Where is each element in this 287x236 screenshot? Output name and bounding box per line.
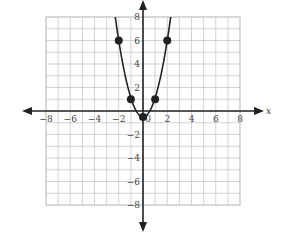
y-tick-label: 8: [134, 12, 140, 22]
y-tick-label: 2: [134, 83, 140, 93]
x-axis-right-arrow-icon: [254, 107, 264, 115]
y-tick-label: 6: [134, 36, 140, 46]
data-point: [127, 95, 135, 103]
y-tick-label: −8: [127, 200, 141, 210]
x-tick-label: 8: [237, 114, 243, 124]
x-axis-label: x: [266, 106, 271, 116]
x-tick-label: 2: [164, 114, 170, 124]
y-axis-down-arrow-icon: [139, 222, 147, 232]
x-axis-left-arrow-icon: [22, 107, 32, 115]
data-point: [163, 37, 171, 45]
x-tick-label: 4: [189, 114, 195, 124]
y-axis-up-arrow-icon: [139, 0, 147, 10]
x-tick-label: −8: [39, 114, 53, 124]
data-point: [151, 95, 159, 103]
y-tick-label: −4: [127, 153, 141, 163]
y-tick-label: 4: [134, 59, 140, 69]
x-tick-label: −6: [64, 114, 78, 124]
data-point: [139, 113, 147, 121]
x-tick-label: −2: [112, 114, 125, 124]
data-point: [115, 37, 123, 45]
coordinate-plane: −8−6−4−202468−8−6−4−22468 x: [0, 0, 287, 236]
y-tick-label: −6: [127, 177, 141, 187]
x-tick-label: 6: [213, 114, 219, 124]
x-tick-label: −4: [88, 114, 102, 124]
y-tick-label: −2: [127, 130, 140, 140]
